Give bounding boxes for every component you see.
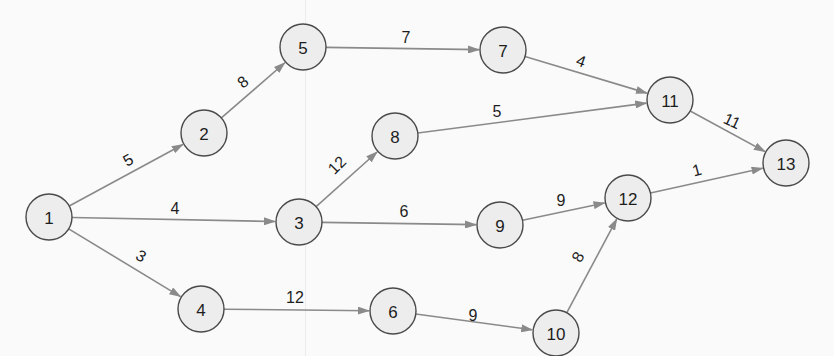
edge-arrow-1-3 xyxy=(72,217,275,221)
node-label: 7 xyxy=(498,42,507,61)
edge-weight-label: 9 xyxy=(469,307,478,324)
node-label: 5 xyxy=(298,39,307,58)
node-10: 10 xyxy=(533,310,579,356)
node-label: 3 xyxy=(294,214,303,233)
node-11: 11 xyxy=(647,77,693,123)
node-2: 2 xyxy=(181,110,227,156)
edge-arrow-1-4 xyxy=(69,229,181,297)
edge-weight-label: 5 xyxy=(493,103,502,120)
edge-weight-label: 12 xyxy=(286,289,304,306)
edge-arrow-4-6 xyxy=(224,309,369,311)
edge-weight-label: 4 xyxy=(171,200,180,217)
node-12: 12 xyxy=(605,175,651,221)
node-13: 13 xyxy=(763,140,809,186)
node-label: 2 xyxy=(199,125,208,144)
edge-weight-label: 8 xyxy=(234,73,252,92)
edge-weight-label: 1 xyxy=(690,161,703,180)
nodes-layer: 12345678910111213 xyxy=(26,24,809,356)
node-label: 10 xyxy=(547,325,566,344)
node-6: 6 xyxy=(370,288,416,334)
node-1: 1 xyxy=(26,194,72,240)
network-svg: 543812612794598111 12345678910111213 xyxy=(0,0,834,356)
node-label: 1 xyxy=(44,209,53,228)
edge-weight-label: 8 xyxy=(568,249,587,265)
network-diagram: 543812612794598111 12345678910111213 xyxy=(0,0,834,356)
node-3: 3 xyxy=(276,199,322,245)
edge-weight-label: 4 xyxy=(574,51,588,70)
node-9: 9 xyxy=(477,202,523,248)
node-label: 6 xyxy=(388,303,397,322)
node-label: 13 xyxy=(777,155,796,174)
node-7: 7 xyxy=(480,27,526,73)
edge-arrow-3-9 xyxy=(322,222,476,224)
edge-arrow-3-8 xyxy=(316,152,377,207)
edge-arrow-12-13 xyxy=(650,168,762,193)
edge-weight-label: 12 xyxy=(325,153,350,178)
edge-arrow-10-12 xyxy=(567,219,617,313)
edge-weight-label: 6 xyxy=(400,203,409,220)
edge-arrow-5-7 xyxy=(326,47,479,49)
node-label: 4 xyxy=(196,301,205,320)
node-4: 4 xyxy=(178,286,224,332)
edge-weight-label: 5 xyxy=(120,150,136,169)
node-5: 5 xyxy=(280,24,326,70)
node-label: 12 xyxy=(619,190,638,209)
edge-weight-label: 3 xyxy=(133,246,149,265)
edge-weight-label: 9 xyxy=(557,192,566,209)
node-label: 8 xyxy=(390,128,399,147)
edge-weight-label: 7 xyxy=(402,29,411,46)
edge-arrow-7-11 xyxy=(525,57,647,94)
node-label: 9 xyxy=(495,217,504,236)
node-label: 11 xyxy=(661,92,679,111)
edge-arrow-8-11 xyxy=(418,103,646,133)
node-8: 8 xyxy=(372,113,418,159)
edge-arrow-2-5 xyxy=(221,63,285,118)
edge-labels-layer: 543812612794598111 xyxy=(120,29,743,324)
